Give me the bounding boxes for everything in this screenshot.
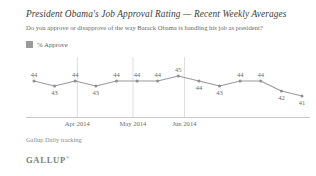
data-point-marker: [218, 85, 221, 88]
data-point-marker: [239, 80, 242, 83]
data-point-marker: [259, 80, 262, 83]
plot-area: 4443444344444445444344444241: [26, 57, 310, 117]
data-point-marker: [53, 85, 56, 88]
data-point-marker: [94, 85, 97, 88]
data-point-marker: [74, 80, 77, 83]
data-point-value: 43: [93, 89, 100, 96]
data-point-marker: [280, 90, 283, 93]
data-point-value: 44: [134, 71, 141, 78]
data-point-value: 44: [113, 71, 120, 78]
data-point-value: 43: [216, 89, 223, 96]
legend-swatch-icon: [26, 41, 33, 48]
gallup-logo: GALLUP®: [26, 155, 69, 165]
data-point-value: 44: [258, 71, 265, 78]
source-note: Gallup Daily tracking: [26, 136, 82, 143]
data-point-value: 42: [278, 94, 285, 101]
gridlines: [77, 57, 184, 117]
x-axis-tick-label: Apr 2014: [65, 120, 90, 127]
chart-title: President Obama's Job Approval Rating — …: [26, 9, 308, 20]
data-point-value: 43: [51, 89, 58, 96]
data-point-value: 44: [196, 84, 203, 91]
data-point-labels: 4443444344444445444344444241: [31, 66, 306, 106]
data-point-marker: [115, 80, 118, 83]
x-axis-line: [26, 117, 310, 118]
data-point-marker: [33, 80, 36, 83]
line-chart-svg: 4443444344444445444344444241: [26, 57, 310, 117]
data-point-marker: [177, 75, 180, 78]
data-point-value: 44: [237, 71, 244, 78]
legend-label: % Approve: [37, 41, 68, 48]
chart-legend: % Approve: [26, 41, 68, 48]
data-point-value: 44: [31, 71, 38, 78]
registered-mark-icon: ®: [66, 155, 69, 160]
data-point-marker: [197, 80, 200, 83]
x-axis-labels: Apr 2014May 2014Jun 2014: [26, 120, 310, 132]
data-point-marker: [136, 80, 139, 83]
chart-subtitle: Do you approve or disapprove of the way …: [26, 24, 312, 32]
data-point-value: 45: [175, 66, 182, 73]
x-axis-tick-label: May 2014: [119, 120, 146, 127]
data-point-value: 44: [72, 71, 79, 78]
data-point-marker: [301, 95, 304, 98]
gallup-logo-text: GALLUP: [26, 155, 66, 165]
data-point-marker: [156, 80, 159, 83]
x-axis-tick-label: Jun 2014: [172, 120, 196, 127]
data-point-value: 44: [154, 71, 161, 78]
gallup-chart: President Obama's Job Approval Rating — …: [0, 0, 316, 176]
approval-line: [34, 76, 302, 96]
data-point-value: 41: [299, 99, 306, 106]
